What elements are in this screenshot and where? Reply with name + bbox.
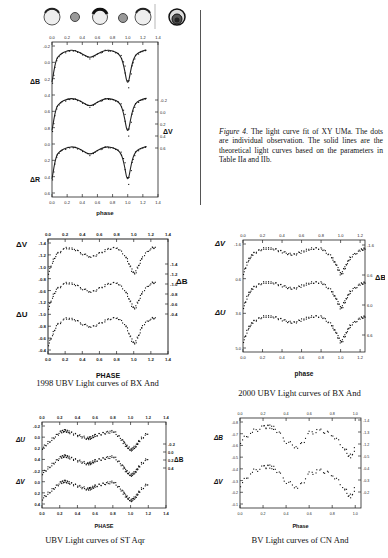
top-tick-label: 0.2: [64, 35, 70, 40]
top-tick-label: 0.0: [238, 412, 243, 416]
star-model-strip: [30, 2, 190, 30]
left-tick-label: -1.2: [38, 300, 46, 305]
top-tick-label: 1.0: [128, 415, 134, 420]
bottom-tick-label: 1.2: [357, 355, 363, 360]
bottom-tick-label: 0.0: [39, 511, 45, 516]
left-tick-label: -0.1: [232, 503, 238, 507]
right-tick-label: -1.3: [363, 431, 369, 435]
right-tick-label: -1.4: [363, 419, 369, 423]
x-axis-label: Phase: [292, 523, 308, 529]
bottom-tick-label: 0.2: [57, 511, 63, 516]
left-tick-label: 0.4: [44, 175, 50, 180]
bottom-tick-label: 1.2: [148, 357, 155, 362]
bottom-tick-label: 1.0: [338, 355, 344, 360]
left-tick-label: 0.6: [44, 191, 50, 196]
light-curve-delta-V: [243, 247, 366, 275]
right-tick-label: -0.4: [170, 312, 178, 317]
right-axis-label: ΔV: [163, 128, 173, 135]
top-tick-label: 0.6: [96, 232, 103, 237]
light-curve-delta-V: [240, 464, 355, 498]
left-tick-label: -0.6: [38, 289, 46, 294]
right-tick-label: 6.0: [367, 303, 373, 308]
bottom-tick-label: 0.4: [284, 512, 289, 516]
light-curve-delta-V: [48, 246, 156, 274]
left-tick-label: -1.2: [38, 253, 46, 258]
bottom-tick-label: 0.8: [114, 357, 121, 362]
left-tick-label: 0.0: [34, 435, 40, 440]
bottom-tick-label: 0.4: [80, 200, 86, 205]
bx-and-1998-caption: 1998 UBV Light curves of BX And: [20, 378, 175, 388]
bottom-tick-label: 0.8: [318, 355, 324, 360]
left-tick-label: -0.8: [38, 277, 46, 282]
bottom-tick-label: 0.4: [279, 355, 285, 360]
bottom-tick-label: 1.4: [163, 511, 169, 516]
bottom-tick-label: 0.2: [62, 357, 69, 362]
top-tick-label: 0.2: [62, 232, 69, 237]
right-axis-label: ΔB: [375, 273, 385, 282]
top-tick-label: 0.8: [110, 415, 116, 420]
bottom-tick-label: 0.6: [299, 355, 305, 360]
bottom-tick-label: 0.2: [260, 355, 266, 360]
top-tick-label: 0.8: [330, 412, 335, 416]
plot-frame: [48, 239, 168, 354]
bottom-tick-label: 0.4: [75, 511, 81, 516]
top-tick-label: 0.8: [110, 35, 116, 40]
top-tick-label: 0.0: [39, 415, 45, 420]
binary-model-phase-0: [44, 9, 60, 25]
bottom-tick-label: 1.4: [155, 200, 161, 205]
top-tick-label: 1.2: [148, 232, 155, 237]
bx-and-1998-chart: 0.00.20.40.60.81.01.21.40.00.20.40.60.81…: [8, 225, 188, 380]
top-tick-label: 1.4: [165, 232, 172, 237]
bottom-tick-label: 0.0: [45, 357, 52, 362]
left-tick-label: 0.0: [44, 142, 50, 147]
cn-and-caption: BV Light curves of CN And: [235, 535, 365, 545]
top-tick-label: 1.4: [155, 35, 161, 40]
bottom-tick-label: 1.2: [146, 511, 152, 516]
left-tick-label: -0.3: [232, 480, 238, 484]
light-curve-delta-B: [52, 50, 147, 89]
left-tick-label: 0.2: [44, 77, 50, 82]
bottom-tick-label: 0.6: [92, 511, 98, 516]
left-tick-label: 5.0: [235, 346, 241, 351]
light-curve-delta-B: [240, 424, 355, 458]
light-curve-delta-B: [243, 281, 366, 309]
bottom-tick-label: 0.0: [238, 512, 243, 516]
bottom-tick-label: 0.2: [261, 512, 266, 516]
right-tick-label: 0.0: [160, 110, 166, 115]
right-tick-label: 0.2: [160, 122, 166, 127]
top-tick-label: 1.2: [146, 415, 152, 420]
left-tick-label: -1.6: [234, 242, 242, 247]
left-tick-label: 0.0: [44, 60, 50, 65]
light-curve-delta-R: [52, 146, 147, 185]
left-axis-label: ΔV: [213, 478, 223, 485]
bottom-tick-label: 1.2: [140, 200, 146, 205]
right-tick-label: 0.0: [168, 450, 174, 455]
right-tick-label: -0.2: [363, 491, 369, 495]
left-tick-label: -0.8: [232, 421, 238, 425]
left-tick-label: -0.6: [38, 336, 46, 341]
right-tick-label: 0.6: [367, 273, 373, 278]
bottom-tick-label: 1.0: [128, 511, 134, 516]
left-tick-label: -0.2: [232, 491, 238, 495]
st-aqr-chart: 0.00.20.40.60.81.01.21.40.00.20.40.60.81…: [8, 410, 188, 530]
bottom-tick-label: 1.0: [125, 200, 131, 205]
left-tick-label: 3.6: [235, 311, 241, 316]
bottom-tick-label: 0.6: [307, 512, 312, 516]
light-curve-delta-B: [42, 454, 148, 476]
left-tick-label: 0.8: [44, 126, 50, 131]
light-curve-delta-V: [42, 480, 148, 502]
bottom-tick-label: 0.8: [110, 511, 116, 516]
cn-and-chart: 0.00.20.40.60.81.00.00.20.40.60.81.0-0.8…: [210, 410, 385, 530]
bottom-tick-label: 0.6: [96, 357, 103, 362]
right-tick-label: -0.6: [170, 302, 178, 307]
bottom-tick-label: 0.2: [64, 200, 70, 205]
bottom-tick-label: 0.8: [110, 200, 116, 205]
light-curve-delta-V: [52, 98, 147, 137]
right-tick-label: -1.2: [363, 443, 369, 447]
top-tick-label: 0.4: [279, 233, 285, 238]
top-tick-label: 0.2: [260, 233, 266, 238]
left-tick-label: 0.4: [44, 93, 50, 98]
x-axis-label: phase: [295, 370, 314, 378]
top-tick-label: 0.4: [75, 415, 81, 420]
right-tick-label: -0.3: [363, 479, 369, 483]
